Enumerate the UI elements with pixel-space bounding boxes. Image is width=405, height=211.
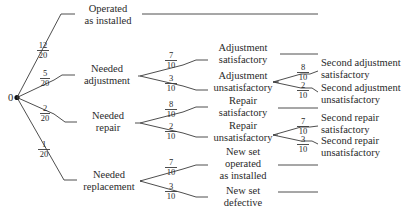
prob-num: 2 xyxy=(43,103,47,113)
node-label: New set xyxy=(226,185,260,196)
prob-num: 3 xyxy=(301,134,305,144)
node-label: satisfactory xyxy=(219,107,268,118)
prob-den: 20 xyxy=(39,50,48,60)
branch-adjustment-unsatisfactory: 3 10 Adjustment unsatisfactory xyxy=(140,70,279,93)
branch-new-set-defective: 3 10 New set defective xyxy=(140,181,318,208)
node-label: unsatisfactory xyxy=(214,82,274,93)
node-label: Operated xyxy=(89,3,128,14)
root-label: 0 xyxy=(8,92,13,103)
prob-den: 10 xyxy=(299,90,308,100)
prob-num: 3 xyxy=(169,181,173,191)
prob-num: 12 xyxy=(39,40,48,50)
node-label: unsatisfactory xyxy=(321,94,381,105)
prob-num: 8 xyxy=(169,99,173,109)
node-label: New set xyxy=(226,146,260,157)
branch-second-repair-satisfactory: 7 10 Second repair satisfactory xyxy=(273,112,380,136)
branch-needed-repair: 2 20 Needed repair xyxy=(17,98,140,134)
node-label: Adjustment xyxy=(219,42,268,53)
node-label: Needed xyxy=(91,63,124,74)
node-label: Second repair xyxy=(321,112,380,123)
prob-num: 8 xyxy=(301,62,305,72)
prob-num: 7 xyxy=(301,116,305,126)
node-label: Needed xyxy=(93,169,126,180)
prob-den: 10 xyxy=(167,83,176,93)
node-label: replacement xyxy=(83,181,134,192)
branch-second-adjustment-satisfactory: 8 10 Second adjustment satisfactory xyxy=(273,57,401,82)
node-label: Second adjustment xyxy=(321,57,401,68)
probability-tree-diagram: 0 12 20 Operated as installed 5 20 Neede… xyxy=(0,0,405,211)
prob-num: 1 xyxy=(42,139,46,149)
prob-den: 20 xyxy=(41,113,50,123)
branch-second-repair-unsatisfactory: 3 10 Second repair unsatisfactory xyxy=(273,134,381,158)
prob-num: 3 xyxy=(169,73,173,83)
node-label: adjustment xyxy=(84,75,130,86)
prob-num: 5 xyxy=(43,68,47,78)
node-label: satisfactory xyxy=(219,54,268,65)
branch-repair-unsatisfactory: 2 10 Repair unsatisfactory xyxy=(140,120,273,143)
prob-den: 10 xyxy=(167,109,176,119)
node-label: defective xyxy=(224,197,263,208)
prob-den: 10 xyxy=(167,60,176,70)
node-label: satisfactory xyxy=(321,124,370,135)
node-label: operated xyxy=(225,158,262,169)
branch-new-set-operated: 7 10 New set operated as installed xyxy=(140,146,318,181)
prob-den: 20 xyxy=(41,78,50,88)
prob-num: 7 xyxy=(169,50,173,60)
prob-den: 10 xyxy=(167,131,176,141)
branch-needed-adjustment: 5 20 Needed adjustment xyxy=(17,63,140,98)
node-label: Second adjustment xyxy=(321,82,401,93)
node-label: Second repair xyxy=(321,135,380,146)
node-label: unsatisfactory xyxy=(214,132,274,143)
node-label: Repair xyxy=(229,95,257,106)
prob-den: 20 xyxy=(40,149,49,159)
node-label: unsatisfactory xyxy=(321,147,381,158)
branch-repair-satisfactory: 8 10 Repair satisfactory xyxy=(140,95,318,123)
prob-den: 10 xyxy=(167,167,176,177)
node-label: as installed xyxy=(85,15,133,26)
branch-second-adjustment-unsatisfactory: 2 10 Second adjustment unsatisfactory xyxy=(273,80,401,105)
node-label: Needed xyxy=(92,110,125,121)
node-label: as installed xyxy=(220,170,268,181)
prob-num: 2 xyxy=(169,121,173,131)
prob-num: 7 xyxy=(169,157,173,167)
prob-num: 2 xyxy=(301,80,305,90)
node-label: Repair xyxy=(229,120,257,131)
node-label: repair xyxy=(96,122,121,133)
node-label: satisfactory xyxy=(321,69,370,80)
prob-den: 10 xyxy=(167,191,176,201)
prob-den: 10 xyxy=(299,144,308,154)
node-label: Adjustment xyxy=(219,70,268,81)
